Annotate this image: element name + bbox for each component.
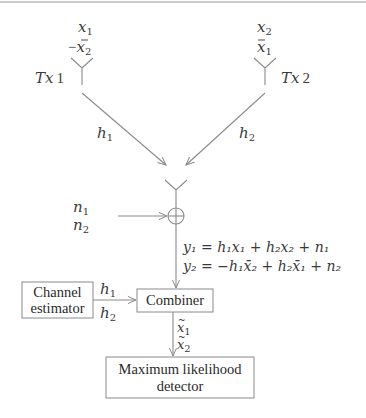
channel-estimator-line1: Channel	[33, 284, 81, 300]
receiver: n1 n2 y₁ = h₁x₁ + h₂x₂ + n₁ y₂ = −h₁x̄₂ …	[73, 180, 341, 288]
ml-detector-line1: Maximum likelihood	[119, 361, 243, 377]
tx2-symbol-2: x1	[257, 38, 272, 57]
adder-icon	[168, 208, 184, 224]
antenna-icon	[71, 58, 93, 85]
noise-n2: n2	[73, 216, 89, 235]
tx1-symbol-1: x1	[78, 18, 93, 37]
tx2-symbol-1: x2	[257, 18, 272, 37]
tx2-label: Tx2	[281, 69, 310, 87]
estimator-h2-label: h2	[100, 304, 116, 323]
ml-detector-line2: detector	[157, 378, 204, 394]
channel-estimator-block: Channel estimator	[22, 282, 93, 318]
antenna-icon	[254, 58, 276, 85]
ml-detector-block: Maximum likelihood detector	[106, 357, 254, 398]
transmitter-1: x1 −x2 Tx1 h1	[35, 18, 166, 165]
receive-antenna-icon	[165, 180, 187, 208]
noise-n1: n1	[73, 198, 89, 217]
channel-estimator-line2: estimator	[31, 300, 85, 316]
transmitter-2: x2 x1 Tx2 h2	[186, 18, 310, 165]
combiner-output-2-tilde: ~	[178, 332, 186, 342]
tx1-symbol-2: −x2	[68, 38, 91, 57]
estimator-h1-label: h1	[100, 280, 116, 299]
tx1-label: Tx1	[35, 69, 64, 87]
channel-h1-label: h1	[97, 124, 113, 143]
equation-y1: y₁ = h₁x₁ + h₂x₂ + n₁	[182, 239, 329, 255]
channel-path-2	[186, 93, 265, 165]
channel-path-1	[82, 93, 166, 165]
equation-y2: y₂ = −h₁x̄₂ + h₂x̄₁ + n₂	[182, 258, 341, 274]
channel-h2-label: h2	[239, 124, 255, 143]
alamouti-diagram: x1 −x2 Tx1 h1 x2 x1 Tx2	[0, 0, 366, 418]
combiner-label: Combiner	[146, 292, 204, 308]
combiner-output-1-tilde: ~	[178, 315, 186, 325]
combiner-block: Combiner	[137, 289, 213, 312]
